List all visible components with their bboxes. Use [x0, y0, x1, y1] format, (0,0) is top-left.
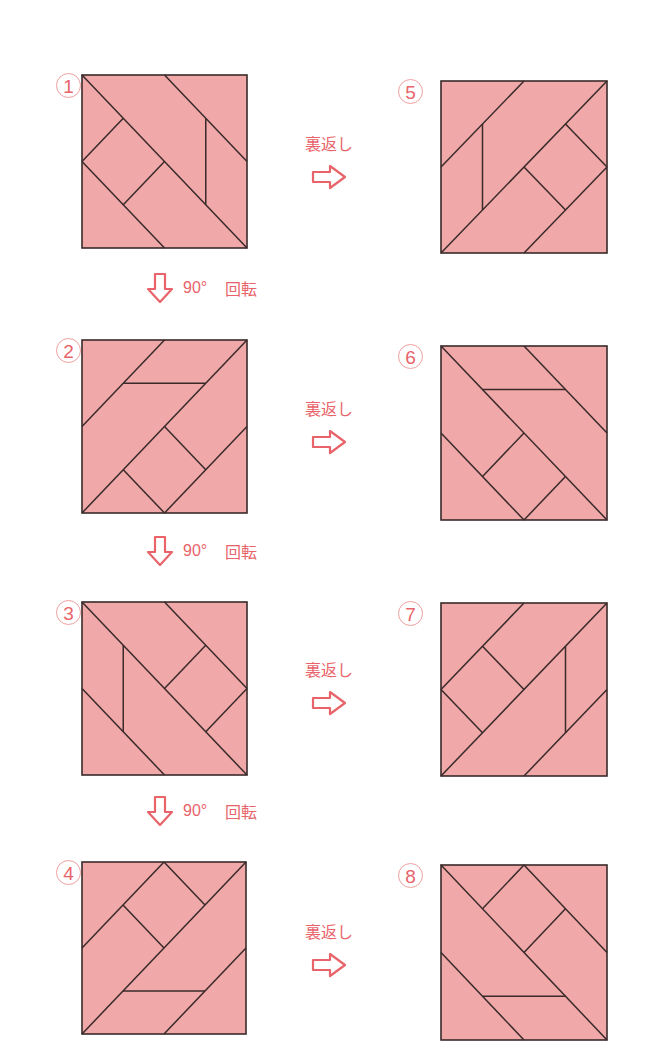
rotation-label: 回転	[225, 276, 257, 300]
tangram-square	[82, 602, 247, 775]
square-panel-5: 5	[441, 81, 607, 253]
right-arrow-icon	[310, 163, 348, 191]
tangram-square	[441, 81, 607, 253]
right-arrow-icon	[310, 428, 348, 456]
flip-label: 裏返し	[294, 919, 364, 943]
tangram-square	[82, 75, 247, 248]
rotate-annotation-1: 90° 回転	[145, 272, 257, 304]
square-panel-7: 7	[441, 603, 607, 776]
panel-number-badge: 8	[398, 863, 423, 888]
rotate-annotation-3: 90° 回転	[145, 795, 257, 827]
panel-number-badge: 1	[56, 73, 81, 98]
down-arrow-icon	[145, 272, 175, 304]
rotation-degrees: 90°	[183, 802, 207, 820]
square-panel-8: 8	[441, 865, 607, 1040]
down-arrow-icon	[145, 795, 175, 827]
tangram-square	[82, 862, 246, 1034]
panel-number-badge: 4	[56, 860, 81, 885]
tangram-square	[82, 340, 247, 513]
right-arrow-icon	[310, 689, 348, 717]
square-panel-2: 2	[82, 340, 247, 513]
rotation-label: 回転	[225, 539, 257, 563]
panel-number-badge: 6	[398, 344, 423, 369]
tangram-square	[441, 603, 607, 776]
flip-label: 裏返し	[294, 396, 364, 420]
panel-number-badge: 5	[398, 79, 423, 104]
square-panel-1: 1	[82, 75, 247, 248]
tangram-square	[441, 865, 607, 1040]
flip-annotation-1: 裏返し	[294, 131, 364, 191]
flip-annotation-3: 裏返し	[294, 657, 364, 717]
rotation-label: 回転	[225, 799, 257, 823]
flip-annotation-4: 裏返し	[294, 919, 364, 979]
down-arrow-icon	[145, 535, 175, 567]
square-panel-4: 4	[82, 862, 246, 1034]
square-panel-6: 6	[441, 346, 607, 520]
panel-number-badge: 3	[56, 600, 81, 625]
rotation-degrees: 90°	[183, 542, 207, 560]
rotate-annotation-2: 90° 回転	[145, 535, 257, 567]
panel-number-badge: 2	[56, 338, 81, 363]
square-panel-3: 3	[82, 602, 247, 775]
tangram-square	[441, 346, 607, 520]
panel-number-badge: 7	[398, 601, 423, 626]
flip-label: 裏返し	[294, 131, 364, 155]
right-arrow-icon	[310, 951, 348, 979]
rotation-degrees: 90°	[183, 279, 207, 297]
flip-annotation-2: 裏返し	[294, 396, 364, 456]
flip-label: 裏返し	[294, 657, 364, 681]
